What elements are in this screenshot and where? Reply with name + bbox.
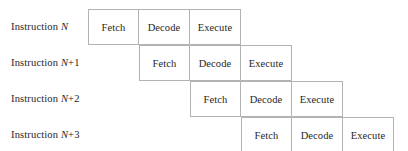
pipeline-stage-cell: Execute bbox=[190, 9, 241, 45]
instruction-label-variable: N bbox=[61, 129, 68, 140]
instruction-label-offset: +3 bbox=[68, 129, 79, 140]
pipeline-stage-cell: Fetch bbox=[88, 9, 139, 45]
instruction-row-label: Instruction N bbox=[11, 9, 68, 45]
pipeline-stage-cell: Fetch bbox=[190, 81, 241, 117]
instruction-label-prefix: Instruction bbox=[11, 93, 61, 104]
instruction-row-label: Instruction N+1 bbox=[11, 45, 80, 81]
instruction-label-prefix: Instruction bbox=[11, 21, 61, 32]
pipeline-row: Instruction N+2FetchDecodeExecute bbox=[0, 81, 408, 117]
instruction-label-variable: N bbox=[61, 21, 68, 32]
instruction-label-prefix: Instruction bbox=[11, 129, 61, 140]
instruction-label-variable: N bbox=[61, 93, 68, 104]
pipeline-row: Instruction N+1FetchDecodeExecute bbox=[0, 45, 408, 81]
pipeline-stage-cell: Decode bbox=[241, 81, 292, 117]
instruction-label-variable: N bbox=[61, 57, 68, 68]
pipeline-stage-cell: Execute bbox=[292, 81, 343, 117]
pipeline-diagram: Instruction NFetchDecodeExecuteInstructi… bbox=[0, 0, 408, 151]
instruction-row-label: Instruction N+3 bbox=[11, 117, 80, 151]
pipeline-stage-cell: Decode bbox=[139, 9, 190, 45]
pipeline-row: Instruction NFetchDecodeExecute bbox=[0, 9, 408, 45]
pipeline-stage-cell: Execute bbox=[241, 45, 292, 81]
instruction-label-offset: +2 bbox=[68, 93, 79, 104]
pipeline-stage-cell: Execute bbox=[343, 117, 394, 151]
instruction-label-prefix: Instruction bbox=[11, 57, 61, 68]
pipeline-stage-cell: Fetch bbox=[139, 45, 190, 81]
pipeline-stage-cell: Decode bbox=[190, 45, 241, 81]
pipeline-row: Instruction N+3FetchDecodeExecute bbox=[0, 117, 408, 151]
pipeline-stage-cell: Fetch bbox=[241, 117, 292, 151]
instruction-row-label: Instruction N+2 bbox=[11, 81, 80, 117]
pipeline-stage-cell: Decode bbox=[292, 117, 343, 151]
instruction-label-offset: +1 bbox=[68, 57, 79, 68]
